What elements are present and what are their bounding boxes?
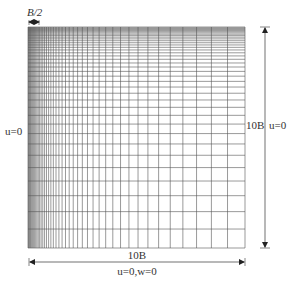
bottom-dimension: 10B u=0,w=0 [29,249,245,277]
right-dimension: 10B u=0 [246,27,287,248]
right-dimension-label: 10B [246,119,264,131]
bottom-dimension-label: 10B [128,249,146,261]
left-boundary-label: u=0 [5,125,23,137]
fem-mesh-diagram: B/2 u=0 10B u=0 10B u=0,w=0 [0,0,290,289]
top-dimension: B/2 [27,6,43,25]
top-dimension-label: B/2 [27,6,43,18]
mesh-grid [28,27,245,248]
bottom-boundary-label: u=0,w=0 [117,265,157,277]
right-boundary-label: u=0 [269,119,287,131]
